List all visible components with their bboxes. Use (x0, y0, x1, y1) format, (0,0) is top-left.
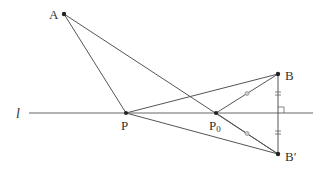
segment-PB (126, 74, 278, 113)
label-B-prime: B′ (285, 149, 297, 164)
point-P (124, 111, 128, 115)
point-B (276, 72, 280, 76)
label-P0: P0 (209, 118, 221, 134)
label-B: B (285, 68, 294, 83)
reflection-diagram: A B B′ P P0 l (0, 0, 329, 174)
label-A: A (49, 7, 59, 22)
label-line-l: l (16, 106, 20, 121)
segment-AP (64, 14, 126, 113)
label-P: P (121, 118, 128, 133)
right-angle-marker (278, 107, 284, 113)
point-A (62, 12, 66, 16)
segment-PB-prime (126, 113, 278, 154)
point-P0 (214, 111, 218, 115)
point-B-prime (276, 152, 280, 156)
